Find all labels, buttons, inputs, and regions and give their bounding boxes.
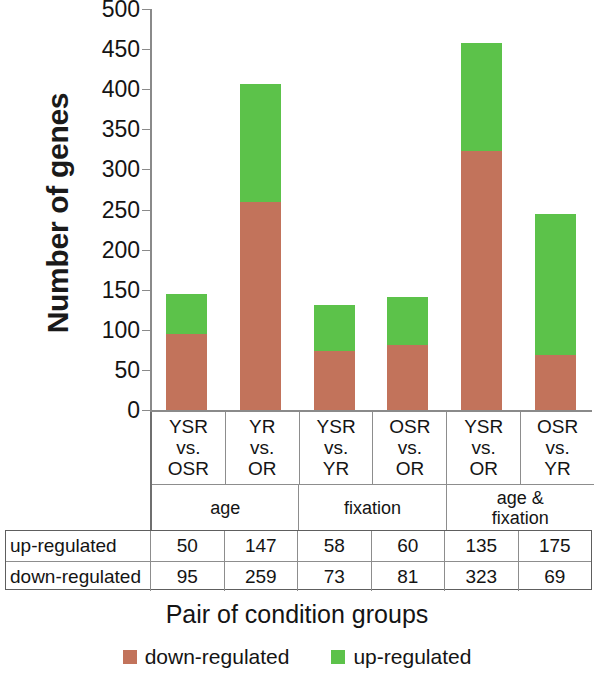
table-cell: 58 xyxy=(298,531,372,561)
group-label-1: age xyxy=(152,485,299,530)
y-axis-line xyxy=(150,9,152,412)
category-label-line: vs. xyxy=(447,437,520,458)
category-label-line: YSR xyxy=(300,416,373,437)
category-label-line: YR xyxy=(226,416,299,437)
y-axis-tick xyxy=(142,49,151,50)
legend-swatch-icon xyxy=(331,650,345,664)
legend-label: down-regulated xyxy=(145,645,290,669)
y-axis-tick xyxy=(142,169,151,170)
stacked-bar xyxy=(314,305,355,410)
y-axis-tick-label: 500 xyxy=(78,0,140,21)
table-cell: 73 xyxy=(298,562,372,591)
y-axis-tick-label: 400 xyxy=(78,78,140,101)
category-label-line: vs. xyxy=(521,437,594,458)
group-label-text: age &fixation xyxy=(492,488,549,528)
bar-segment-up-regulated xyxy=(387,297,428,345)
stacked-bar-chart-figure: Number of genes 050100150200250300350400… xyxy=(0,0,594,678)
category-label-line: YR xyxy=(521,458,594,479)
category-label-line: OR xyxy=(447,458,520,479)
group-label-3: age &fixation xyxy=(447,485,594,530)
category-label-line: vs. xyxy=(300,437,373,458)
bar-segment-up-regulated xyxy=(535,214,576,354)
y-axis-tick xyxy=(142,250,151,251)
table-cell: 81 xyxy=(372,562,446,591)
category-label-2: YRvs.OR xyxy=(226,412,300,484)
group-label-line: fixation xyxy=(344,498,401,518)
group-label-line: age xyxy=(210,498,240,518)
category-label-line: vs. xyxy=(226,437,299,458)
category-label-3: YSRvs.YR xyxy=(300,412,374,484)
category-label-6: OSRvs.YR xyxy=(521,412,594,484)
category-label-line: YSR xyxy=(447,416,520,437)
x-axis-title: Pair of condition groups xyxy=(0,600,594,629)
category-label-line: OSR xyxy=(521,416,594,437)
table-cell: 50 xyxy=(151,531,225,561)
y-axis-tick xyxy=(142,370,151,371)
table-cell: 175 xyxy=(519,531,592,561)
data-table: up-regulated501475860135175 down-regulat… xyxy=(5,530,592,590)
category-label-row: YSRvs.OSRYRvs.ORYSRvs.YROSRvs.ORYSRvs.OR… xyxy=(152,412,594,484)
legend-swatch-icon xyxy=(123,650,137,664)
table-row-header: down-regulated xyxy=(6,562,151,591)
bar-segment-down-regulated xyxy=(166,334,207,410)
category-label-5: YSRvs.OR xyxy=(447,412,521,484)
table-cell: 135 xyxy=(445,531,519,561)
y-axis-tick xyxy=(142,330,151,331)
stacked-bar xyxy=(461,43,502,410)
y-axis-title: Number of genes xyxy=(41,13,75,413)
bar-segment-up-regulated xyxy=(461,43,502,151)
stacked-bar xyxy=(240,84,281,410)
category-label-line: OR xyxy=(226,458,299,479)
category-label-line: YSR xyxy=(152,416,225,437)
group-label-line: age & xyxy=(492,488,549,508)
y-axis-tick-label: 50 xyxy=(78,359,140,382)
table-cell: 69 xyxy=(519,562,592,591)
table-cell: 323 xyxy=(445,562,519,591)
y-axis-tick-label: 350 xyxy=(78,118,140,141)
table-cell: 147 xyxy=(225,531,299,561)
bar-segment-up-regulated xyxy=(314,305,355,352)
bar-segment-down-regulated xyxy=(387,345,428,410)
category-label-line: YR xyxy=(300,458,373,479)
category-label-1: YSRvs.OSR xyxy=(152,412,226,484)
stacked-bar xyxy=(166,294,207,410)
stacked-bar xyxy=(535,214,576,410)
bar-segment-down-regulated xyxy=(240,202,281,410)
chart-legend: down-regulatedup-regulated xyxy=(0,645,594,669)
category-label-line: OR xyxy=(373,458,446,479)
bar-segment-up-regulated xyxy=(166,294,207,334)
y-axis-tick xyxy=(142,410,151,411)
category-label-4: OSRvs.OR xyxy=(373,412,447,484)
category-label-line: vs. xyxy=(373,437,446,458)
y-axis-tick-label: 450 xyxy=(78,38,140,61)
bar-segment-down-regulated xyxy=(535,355,576,410)
y-axis-tick xyxy=(142,89,151,90)
legend-label: up-regulated xyxy=(353,645,471,669)
bar-segment-up-regulated xyxy=(240,84,281,202)
legend-item-2: up-regulated xyxy=(331,645,471,669)
table-cell: 95 xyxy=(151,562,225,591)
group-label-text: fixation xyxy=(344,498,401,518)
category-label-line: vs. xyxy=(152,437,225,458)
y-axis-tick-label: 100 xyxy=(78,319,140,342)
y-axis-tick xyxy=(142,210,151,211)
stacked-bar xyxy=(387,297,428,410)
category-label-line: OSR xyxy=(373,416,446,437)
legend-item-1: down-regulated xyxy=(123,645,290,669)
table-row-header: up-regulated xyxy=(6,531,151,561)
bar-segment-down-regulated xyxy=(314,351,355,410)
y-axis-tick-label: 250 xyxy=(78,199,140,222)
table-cell: 259 xyxy=(225,562,299,591)
table-row: down-regulated95259738132369 xyxy=(6,561,591,591)
group-label-text: age xyxy=(210,498,240,518)
y-axis-tick-label: 300 xyxy=(78,158,140,181)
y-axis-tick-label: 200 xyxy=(78,239,140,262)
category-axis-grid: YSRvs.OSRYRvs.ORYSRvs.YROSRvs.ORYSRvs.OR… xyxy=(150,412,592,530)
group-label-line: fixation xyxy=(492,508,549,528)
y-axis-tick xyxy=(142,129,151,130)
group-label-row: agefixationage &fixation xyxy=(152,484,594,530)
bar-segment-down-regulated xyxy=(461,151,502,410)
plot-area xyxy=(150,9,592,412)
y-axis-tick-label: 0 xyxy=(78,399,140,422)
y-axis-tick-label: 150 xyxy=(78,279,140,302)
